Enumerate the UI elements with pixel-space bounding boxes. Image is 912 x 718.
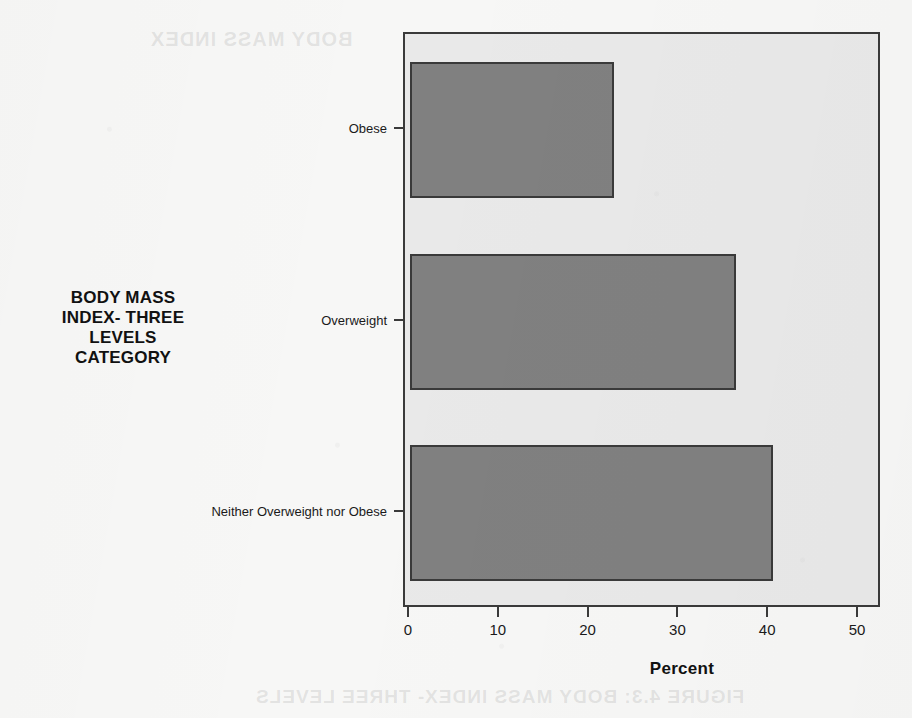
y-axis-title-line-1: BODY MASS	[18, 288, 228, 308]
x-tick-label-50: 50	[849, 621, 866, 638]
x-tick-label-10: 10	[489, 621, 506, 638]
x-axis-title-text: Percent	[650, 659, 714, 679]
bar-overweight[interactable]	[410, 254, 736, 390]
x-tick-40	[766, 607, 768, 617]
x-tick-label-20: 20	[579, 621, 596, 638]
x-tick-10	[497, 607, 499, 617]
y-tick-overweight	[394, 319, 403, 321]
x-tick-label-30: 30	[669, 621, 686, 638]
plot-area	[403, 32, 880, 607]
y-category-label-overweight: Overweight	[0, 312, 395, 327]
y-axis-title-line-4: CATEGORY	[18, 348, 228, 368]
x-tick-label-40: 40	[759, 621, 776, 638]
bar-obese[interactable]	[410, 62, 614, 198]
y-category-label-neither: Neither Overweight nor Obese	[0, 504, 395, 519]
y-axis-title: BODY MASS INDEX- THREE LEVELS CATEGORY	[18, 288, 228, 368]
y-tick-neither	[394, 510, 403, 512]
x-axis-title: Percent	[0, 659, 912, 679]
bar-chart: BODY MASS INDEX- THREE LEVELS CATEGORY O…	[0, 0, 912, 718]
y-tick-obese	[394, 127, 403, 129]
x-tick-label-0: 0	[404, 621, 412, 638]
y-axis-title-line-3: LEVELS	[18, 328, 228, 348]
x-tick-30	[676, 607, 678, 617]
x-tick-20	[587, 607, 589, 617]
bar-neither-overweight-nor-obese[interactable]	[410, 445, 773, 581]
y-category-label-obese: Obese	[0, 120, 395, 135]
x-tick-0	[407, 607, 409, 617]
x-tick-50	[856, 607, 858, 617]
